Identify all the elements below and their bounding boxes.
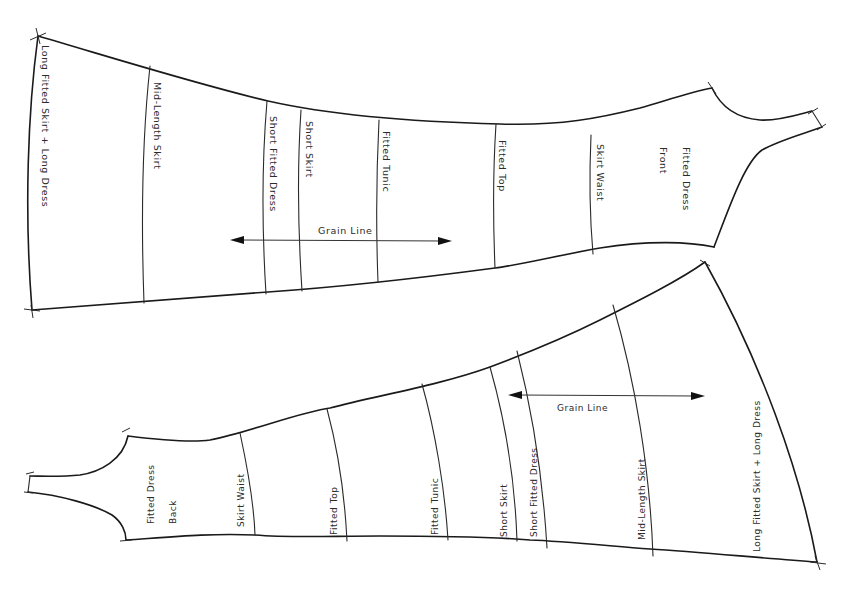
back-bottom-edge xyxy=(126,534,817,562)
arrow-right-icon xyxy=(691,392,705,400)
back-label-fitted-top: Fitted Top xyxy=(329,487,339,535)
front-label-fitted-tunic: Fitted Tunic xyxy=(381,131,392,192)
front-hem-line xyxy=(28,36,38,310)
front-line-fitted-tunic xyxy=(377,120,379,282)
front-bottom-edge xyxy=(32,243,714,310)
front-label-long-fitted-skirt: Long Fitted Skirt + Long Dress xyxy=(40,45,51,207)
arrow-right-icon xyxy=(438,237,452,245)
back-top-edge xyxy=(128,262,705,441)
front-label-skirt-waist: Skirt Waist xyxy=(595,144,606,201)
back-shoulder xyxy=(28,476,30,492)
pattern-sheet: Long Fitted Skirt + Long Dress Mid-Lengt… xyxy=(0,0,846,589)
front-label-mid-length-skirt: Mid-Length Skirt xyxy=(152,82,163,169)
front-armhole xyxy=(714,127,822,247)
back-pattern-piece xyxy=(24,260,826,570)
arrow-left-icon xyxy=(508,391,522,399)
front-neckline xyxy=(712,88,812,120)
back-label-title: Fitted Dress xyxy=(146,464,156,524)
pattern-drawing: Long Fitted Skirt + Long Dress Mid-Lengt… xyxy=(0,0,846,589)
front-grain-label: Grain Line xyxy=(318,225,373,236)
front-line-mid-length-skirt xyxy=(142,66,150,303)
back-grain-label: Grain Line xyxy=(557,403,608,413)
front-line-skirt-waist xyxy=(590,135,593,254)
back-grain-line xyxy=(508,391,705,400)
front-label-short-fitted-dress: Short Fitted Dress xyxy=(268,116,279,212)
back-label-mid-length-skirt: Mid-Length Skirt xyxy=(637,458,647,540)
arrow-left-icon xyxy=(230,236,244,244)
front-label-short-skirt: Short Skirt xyxy=(304,121,315,178)
front-pattern-piece xyxy=(24,28,826,318)
back-line-mid-length-skirt xyxy=(613,305,653,556)
front-label-fitted-top: Fitted Top xyxy=(497,140,508,192)
back-label-subtitle: Back xyxy=(168,500,178,524)
back-label-short-fitted-dress: Short Fitted Dress xyxy=(529,447,539,537)
front-label-title: Fitted Dress xyxy=(681,147,692,211)
back-label-short-skirt: Short Skirt xyxy=(499,484,509,537)
back-label-skirt-waist: Skirt Waist xyxy=(236,473,246,527)
back-label-long-fitted-skirt: Long Fitted Skirt + Long Dress xyxy=(752,400,762,552)
front-line-fitted-top xyxy=(494,124,496,268)
front-shoulder xyxy=(812,111,822,127)
back-armhole xyxy=(28,492,126,540)
front-label-subtitle: Front xyxy=(658,147,669,174)
front-line-short-skirt xyxy=(298,110,302,291)
front-top-edge xyxy=(38,36,712,124)
back-label-fitted-tunic: Fitted Tunic xyxy=(430,478,440,535)
front-line-short-fitted-dress xyxy=(263,101,267,294)
back-neckline xyxy=(30,436,128,476)
